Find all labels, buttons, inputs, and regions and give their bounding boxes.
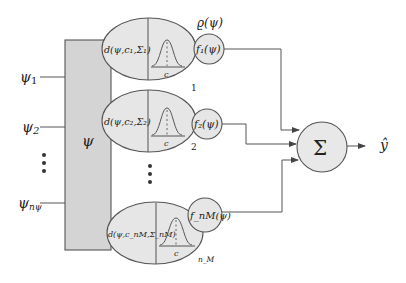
- rule-2-distance-label: d(ψ,c₂,Σ₂): [104, 116, 151, 127]
- input-ellipsis-dots: [42, 153, 46, 173]
- rule-1-center-label: c: [164, 70, 169, 79]
- rules-ellipsis-dots: [148, 164, 152, 184]
- connector-2: [222, 124, 296, 144]
- input-label-1: ψ1: [20, 69, 37, 86]
- rule-2: d(ψ,c₂,Σ₂) c f₂(ψ) 2: [102, 90, 222, 152]
- sum-label: Σ: [313, 136, 327, 160]
- rule-nm-center-label: c: [174, 249, 179, 258]
- rule-nm-distance-label: d(ψ,c_nM,Σ_nM): [108, 230, 176, 239]
- input-label-2: ψ2: [22, 119, 39, 136]
- rule-nm-index: n_M: [198, 255, 215, 264]
- rule-nm: d(ψ,c_nM,Σ_nM) c f_nM(ψ) n_M: [107, 198, 231, 264]
- rule-1-output-label: f₁(ψ): [195, 43, 221, 55]
- output-label: ŷ: [379, 137, 389, 153]
- connector-1: [224, 49, 299, 130]
- rule-2-center-label: c: [164, 139, 169, 148]
- input-block-label: ψ: [82, 132, 94, 150]
- fuzzy-model-diagram: ψ1 ψ2 ψnψ ψ d(ψ,c₁,Σ₁) c f₁(ψ) 1 ϱ(ψ) d(…: [0, 0, 406, 283]
- rule-2-output-label: f₂(ψ): [193, 118, 219, 130]
- input-label-n: ψnψ: [18, 195, 43, 212]
- rule-2-index: 2: [191, 142, 197, 152]
- connector-n: [222, 160, 298, 212]
- rule-1-distance-label: d(ψ,c₁,Σ₁): [104, 44, 151, 55]
- rho-label: ϱ(ψ): [197, 16, 223, 30]
- rule-1-index: 1: [191, 83, 197, 93]
